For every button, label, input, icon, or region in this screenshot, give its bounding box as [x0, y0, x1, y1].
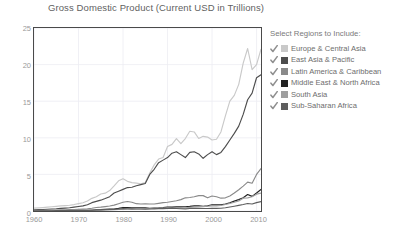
x-axis-tick-label: 2000	[205, 215, 222, 224]
legend-panel: Select Regions to Include: Europe & Cent…	[270, 29, 396, 112]
series-lines	[34, 28, 261, 211]
checkbox-checked-icon[interactable]	[270, 68, 278, 76]
chart-title: Gross Domestic Product (Current USD in T…	[36, 2, 276, 13]
x-axis-tick-label: 1980	[115, 215, 132, 224]
legend-item-label: Europe & Central Asia	[291, 45, 366, 53]
legend-title: Select Regions to Include:	[270, 29, 396, 38]
legend-item-label: Latin America & Caribbean	[291, 68, 381, 76]
legend-color-swatch	[281, 91, 288, 98]
legend-item-label: South Asia	[291, 91, 327, 99]
gdp-chart: Gross Domestic Product (Current USD in T…	[0, 0, 398, 245]
x-axis-tick-label: 1990	[160, 215, 177, 224]
legend-item-label: Middle East & North Africa	[291, 79, 380, 87]
legend-item-6[interactable]: Sub-Saharan Africa	[270, 101, 396, 113]
legend-item-1[interactable]: Europe & Central Asia	[270, 43, 396, 55]
y-axis-tick-label: 5	[27, 172, 31, 181]
x-axis-tick-label: 1960	[26, 215, 43, 224]
legend-item-label: East Asia & Pacific	[291, 56, 354, 64]
legend-item-5[interactable]: South Asia	[270, 89, 396, 101]
y-axis-tick-label: 10	[23, 135, 31, 144]
legend-item-label: Sub-Saharan Africa	[291, 102, 357, 110]
plot-inner	[34, 28, 261, 211]
legend-items: Europe & Central AsiaEast Asia & Pacific…	[270, 43, 396, 112]
checkbox-checked-icon[interactable]	[270, 56, 278, 64]
legend-item-2[interactable]: East Asia & Pacific	[270, 55, 396, 67]
legend-color-swatch	[281, 57, 288, 64]
y-axis-tick-label: 15	[23, 98, 31, 107]
series-line	[34, 75, 261, 210]
checkbox-checked-icon[interactable]	[270, 102, 278, 110]
x-axis-tick-label: 2010	[250, 215, 267, 224]
legend-item-3[interactable]: Latin America & Caribbean	[270, 66, 396, 78]
plot-area: 0510152025 196019701980199020002010	[33, 27, 262, 212]
x-axis-tick-label: 1970	[71, 215, 88, 224]
checkbox-checked-icon[interactable]	[270, 79, 278, 87]
checkbox-checked-icon[interactable]	[270, 91, 278, 99]
checkbox-checked-icon[interactable]	[270, 45, 278, 53]
legend-color-swatch	[281, 80, 288, 87]
legend-color-swatch	[281, 68, 288, 75]
legend-color-swatch	[281, 45, 288, 52]
legend-color-swatch	[281, 103, 288, 110]
y-axis-tick-label: 20	[23, 61, 31, 70]
y-axis-tick-label: 25	[23, 24, 31, 33]
legend-item-4[interactable]: Middle East & North Africa	[270, 78, 396, 90]
series-line	[34, 48, 261, 208]
